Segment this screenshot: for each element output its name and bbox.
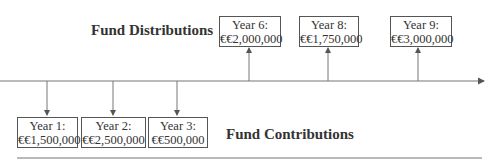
distribution-year: Year 8:	[300, 18, 358, 32]
distribution-box-year-9: Year 9: €€3,000,000	[390, 16, 452, 47]
distribution-year: Year 6:	[220, 18, 280, 32]
contribution-box-year-2: Year 2: €€2,500,000	[81, 117, 146, 148]
distribution-year: Year 9:	[391, 18, 451, 32]
distribution-amount: €€2,000,000	[220, 32, 280, 46]
cash-flow-timeline-diagram: Fund Distributions Fund Contributions Ye…	[0, 0, 496, 162]
distributions-heading: Fund Distributions	[91, 22, 213, 39]
distribution-box-year-8: Year 8: €€1,750,000	[299, 16, 359, 47]
contribution-year: Year 3:	[149, 119, 207, 133]
contribution-year: Year 1:	[18, 119, 77, 133]
contribution-amount: €€500,000	[149, 133, 207, 147]
contributions-heading: Fund Contributions	[226, 126, 354, 143]
contribution-box-year-1: Year 1: €€1,500,000	[17, 117, 78, 148]
distribution-box-year-6: Year 6: €€2,000,000	[219, 16, 281, 47]
distribution-amount: €€3,000,000	[391, 32, 451, 46]
contribution-amount: €€2,500,000	[82, 133, 145, 147]
contribution-year: Year 2:	[82, 119, 145, 133]
distribution-amount: €€1,750,000	[300, 32, 358, 46]
contribution-box-year-3: Year 3: €€500,000	[148, 117, 208, 148]
contribution-amount: €€1,500,000	[18, 133, 77, 147]
